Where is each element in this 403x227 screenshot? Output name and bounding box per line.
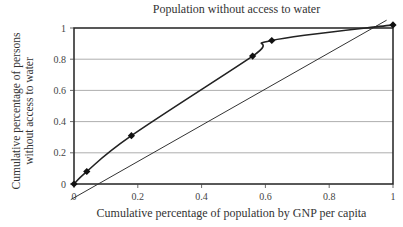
- diamond-marker: [268, 37, 275, 44]
- x-tick-label: 1: [391, 191, 396, 202]
- x-tick-label: 0.8: [323, 191, 336, 202]
- y-tick-label: 0.2: [54, 147, 67, 158]
- plot-border: [74, 28, 393, 184]
- y-tick-label: 0.4: [54, 116, 67, 127]
- y-tick-label: 1: [61, 23, 66, 34]
- x-tick-label: 0.6: [259, 191, 272, 202]
- y-tick-label: 0: [61, 179, 66, 190]
- concentration-curve: [74, 25, 393, 184]
- y-tick-label: 0.6: [54, 85, 67, 96]
- x-tick-label: 0.2: [132, 191, 145, 202]
- x-tick-label: 0.4: [195, 191, 208, 202]
- chart-plot: 00.20.40.60.8100.20.40.60.81: [0, 0, 403, 227]
- y-tick-label: 0.8: [54, 54, 67, 65]
- equality-line: [71, 20, 387, 199]
